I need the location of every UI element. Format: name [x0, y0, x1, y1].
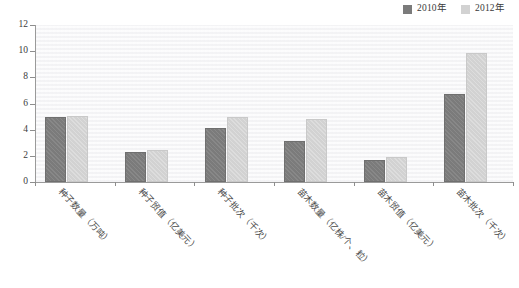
x-tick-2: [194, 182, 195, 186]
y-tick-label-10: 10: [0, 46, 28, 56]
y-tick-label-8: 8: [0, 72, 28, 82]
bar-2010年-苗木贸值（亿美元）: [364, 160, 385, 182]
x-tick-5: [433, 182, 434, 186]
x-tick-3: [274, 182, 275, 186]
y-tick-label-12: 12: [0, 20, 28, 30]
legend-item-2010: 2010年: [403, 4, 447, 14]
bar-chart: 2010年 2012年 024681012 种子数量（万吨）种子贸值（亿美元）种…: [0, 0, 519, 288]
y-tick-8: [30, 77, 35, 78]
category-label-4: 苗木贸值（亿美元）: [375, 187, 437, 253]
legend-item-2012: 2012年: [461, 4, 505, 14]
bar-2012年-苗木批次（千次）: [466, 53, 487, 182]
y-tick-label-2: 2: [0, 151, 28, 161]
category-label-2: 种子批次（千次）: [216, 187, 272, 246]
bar-2010年-苗木数量（亿株/个、粒）: [284, 141, 305, 182]
bar-2012年-种子批次（千次）: [227, 117, 248, 182]
x-tick-0: [35, 182, 36, 186]
x-tick-6: [513, 182, 514, 186]
category-label-0: 种子数量（万吨）: [56, 187, 112, 246]
bars-layer: [35, 25, 513, 182]
plot-area: [35, 25, 513, 182]
category-label-5: 苗木批次（千次）: [455, 187, 511, 246]
category-label-3: 苗木数量（亿株/个、粒）: [295, 187, 372, 268]
bar-2010年-种子批次（千次）: [205, 128, 226, 182]
bar-2012年-种子贸值（亿美元）: [147, 150, 168, 182]
y-tick-label-0: 0: [0, 177, 28, 187]
bar-2012年-种子数量（万吨）: [67, 116, 88, 182]
y-tick-10: [30, 51, 35, 52]
y-axis-labels: 024681012: [0, 0, 28, 288]
y-tick-4: [30, 130, 35, 131]
bar-2012年-苗木数量（亿株/个、粒）: [306, 119, 327, 182]
bar-2010年-苗木批次（千次）: [444, 94, 465, 182]
y-tick-label-4: 4: [0, 125, 28, 135]
x-tick-1: [115, 182, 116, 186]
legend-label-2010: 2010年: [417, 4, 447, 14]
y-tick-12: [30, 25, 35, 26]
y-tick-2: [30, 156, 35, 157]
bar-2012年-苗木贸值（亿美元）: [386, 157, 407, 183]
legend-swatch-2010: [403, 5, 412, 14]
chart-legend: 2010年 2012年: [403, 2, 505, 16]
y-axis-line: [35, 25, 36, 182]
bar-2010年-种子数量（万吨）: [45, 117, 66, 182]
legend-swatch-2012: [461, 5, 470, 14]
x-tick-4: [354, 182, 355, 186]
legend-label-2012: 2012年: [475, 4, 505, 14]
y-tick-6: [30, 104, 35, 105]
y-tick-label-6: 6: [0, 99, 28, 109]
category-label-1: 种子贸值（亿美元）: [136, 187, 198, 253]
bar-2010年-种子贸值（亿美元）: [125, 152, 146, 182]
